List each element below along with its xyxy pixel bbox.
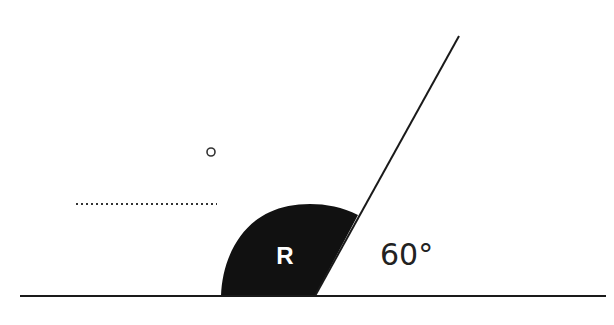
diagram-svg: R 60° bbox=[0, 0, 614, 325]
diagram-canvas: R 60° bbox=[0, 0, 614, 325]
region-label: R bbox=[276, 242, 293, 269]
small-circle-marker bbox=[207, 148, 215, 156]
angle-label: 60° bbox=[380, 237, 433, 272]
